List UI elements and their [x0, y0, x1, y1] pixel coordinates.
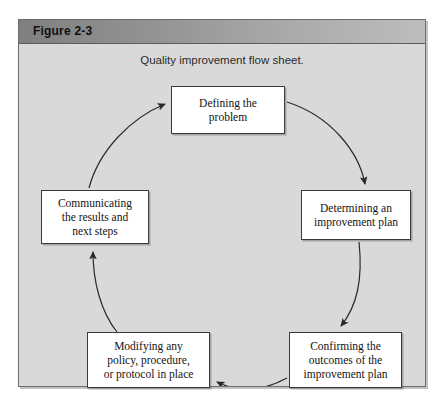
node-label: Determining an improvement plan — [310, 201, 402, 229]
node-label: Communicating the results and next steps — [54, 196, 136, 238]
node-determining-an-improvement-plan: Determining an improvement plan — [301, 190, 411, 240]
node-label: Confirming the outcomes of the improveme… — [300, 339, 392, 381]
figure-header-bar: Figure 2-3 — [19, 20, 425, 44]
node-confirming-the-outcomes: Confirming the outcomes of the improveme… — [289, 332, 402, 388]
node-communicating-the-results: Communicating the results and next steps — [41, 190, 149, 244]
node-defining-the-problem: Defining the problem — [171, 86, 285, 134]
figure-label: Figure 2-3 — [33, 24, 92, 38]
node-label: Modifying any policy, procedure, or prot… — [100, 339, 198, 381]
node-modifying-policy-procedure-protocol: Modifying any policy, procedure, or prot… — [87, 332, 210, 388]
node-label: Defining the problem — [195, 96, 261, 124]
edge-modify-to-communicate — [93, 252, 117, 332]
edge-communicate-to-define — [89, 104, 165, 188]
diagram-canvas: Defining the problem Determining an impr… — [19, 44, 425, 386]
edge-confirm-to-modify — [217, 378, 287, 386]
edge-define-to-determine — [287, 102, 365, 184]
edge-determine-to-confirm — [341, 242, 360, 326]
figure-frame: Figure 2-3 Quality improvement flow shee… — [18, 19, 426, 387]
